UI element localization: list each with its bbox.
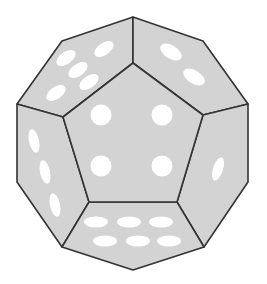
pip bbox=[126, 236, 150, 247]
pip bbox=[91, 156, 112, 177]
dodecahedron-die-figure bbox=[0, 0, 267, 284]
pip bbox=[91, 105, 112, 126]
pip bbox=[93, 236, 117, 247]
pip bbox=[152, 105, 173, 126]
pip bbox=[149, 217, 173, 228]
pip bbox=[117, 217, 141, 228]
pip bbox=[152, 156, 173, 177]
die-drawing bbox=[0, 0, 267, 284]
pip bbox=[84, 217, 108, 228]
pip bbox=[157, 236, 181, 247]
face-bottom bbox=[62, 202, 204, 270]
